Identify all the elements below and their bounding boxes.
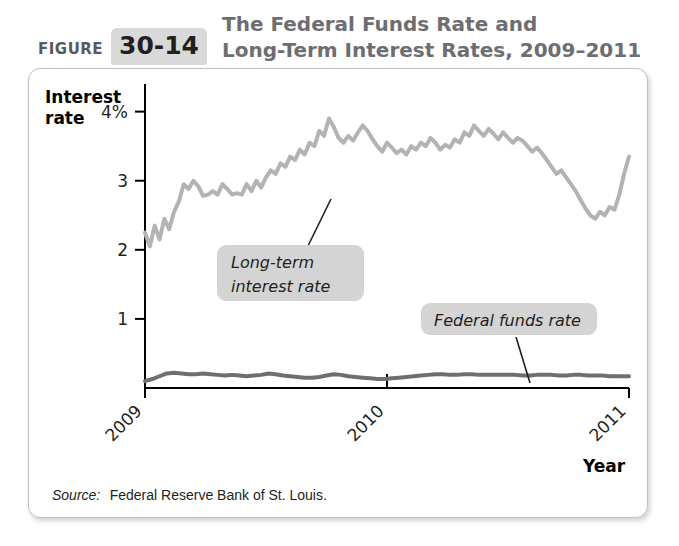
figure-number: 30-14 [111,31,207,60]
figure-label: FIGURE [38,40,103,58]
figure-title: The Federal Funds Rate and Long-Term Int… [222,11,672,63]
figure-header: FIGURE 30-14 The Federal Funds Rate and … [0,4,679,66]
figure-panel [28,68,648,518]
